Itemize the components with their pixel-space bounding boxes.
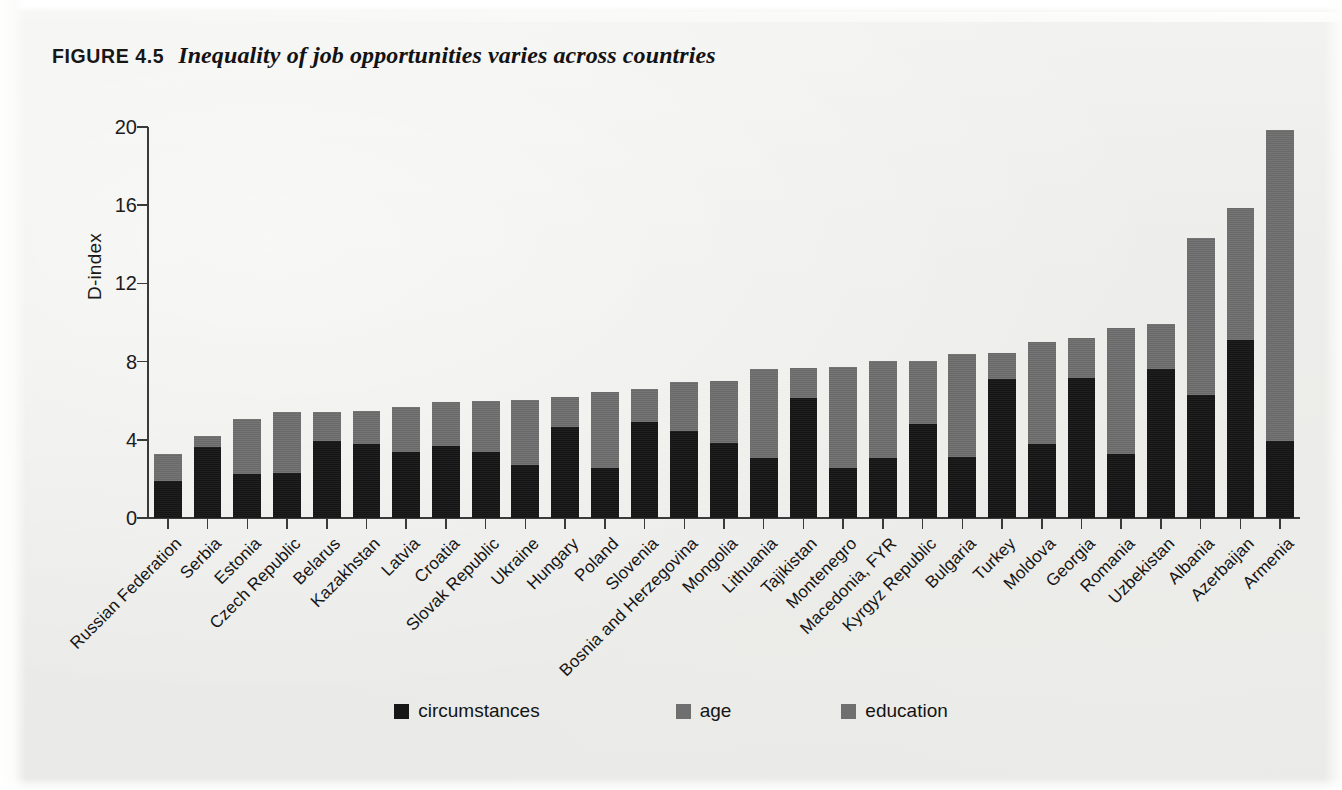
bar-segment-circumstances bbox=[472, 452, 500, 518]
legend-item-age: age bbox=[676, 700, 732, 722]
bar bbox=[948, 354, 976, 518]
bar-segment-circumstances bbox=[909, 424, 937, 518]
bar-segment-circumstances bbox=[353, 444, 381, 518]
bar-segment-age-education bbox=[511, 400, 539, 465]
bar-segment-age-education bbox=[988, 353, 1016, 379]
page-edge-left bbox=[0, 0, 26, 790]
legend-swatch-circumstances bbox=[394, 704, 409, 719]
x-axis-tick bbox=[247, 518, 249, 529]
bar-segment-age-education bbox=[392, 407, 420, 452]
x-axis-tick bbox=[604, 518, 606, 529]
x-axis-tick bbox=[525, 518, 527, 529]
bar bbox=[988, 353, 1016, 518]
bar-segment-age-education bbox=[1068, 338, 1096, 378]
x-axis-tick bbox=[803, 518, 805, 529]
y-axis-tick-label: 8 bbox=[77, 351, 137, 374]
bar-segment-age-education bbox=[670, 382, 698, 431]
x-axis-tick bbox=[1041, 518, 1043, 529]
x-axis-tick bbox=[1200, 518, 1202, 529]
page-edge-top-shadow bbox=[0, 12, 1342, 22]
bar-segment-circumstances bbox=[233, 474, 261, 518]
bar bbox=[273, 412, 301, 518]
figure-title-row: FIGURE 4.5Inequality of job opportunitie… bbox=[52, 42, 716, 69]
bar bbox=[511, 400, 539, 518]
bar bbox=[1187, 238, 1215, 518]
bar-segment-circumstances bbox=[273, 473, 301, 518]
bar-segment-age-education bbox=[790, 368, 818, 397]
x-axis-tick bbox=[962, 518, 964, 529]
bar bbox=[154, 454, 182, 519]
bar bbox=[551, 397, 579, 518]
bar-segment-age-education bbox=[948, 354, 976, 458]
bar-segment-circumstances bbox=[670, 431, 698, 518]
bar-segment-age-education bbox=[631, 389, 659, 422]
bar-segment-circumstances bbox=[1227, 340, 1255, 518]
legend-item-education: education bbox=[841, 700, 947, 722]
bar-segment-age-education bbox=[710, 381, 738, 443]
figure-caption: Inequality of job opportunities varies a… bbox=[178, 42, 716, 69]
plot-area: 048121620 bbox=[148, 127, 1300, 518]
bar-segment-circumstances bbox=[591, 468, 619, 518]
legend-label-age: age bbox=[700, 700, 732, 722]
bar-segment-age-education bbox=[1187, 238, 1215, 394]
y-axis-tick bbox=[137, 283, 148, 285]
bar-segment-age-education bbox=[750, 369, 778, 458]
bar-segment-age-education bbox=[1266, 130, 1294, 441]
bar bbox=[194, 436, 222, 518]
x-axis-tick bbox=[445, 518, 447, 529]
bar bbox=[353, 411, 381, 518]
bar-segment-age-education bbox=[829, 367, 857, 469]
bar bbox=[829, 367, 857, 519]
bar-segment-age-education bbox=[154, 454, 182, 481]
bar-segment-age-education bbox=[432, 402, 460, 446]
page-edge-right bbox=[1324, 0, 1342, 790]
bar-segment-circumstances bbox=[154, 481, 182, 518]
bar-segment-circumstances bbox=[631, 422, 659, 518]
bar bbox=[670, 382, 698, 518]
bar bbox=[1028, 342, 1056, 518]
bar bbox=[1147, 324, 1175, 518]
bar-segment-age-education bbox=[233, 419, 261, 474]
y-axis-tick-label: 12 bbox=[77, 272, 137, 295]
x-axis-tick bbox=[1279, 518, 1281, 529]
bar-segment-circumstances bbox=[432, 446, 460, 518]
legend-label-circumstances: circumstances bbox=[418, 700, 539, 722]
bar bbox=[1068, 338, 1096, 518]
page-edge-bottom bbox=[0, 778, 1342, 790]
bar bbox=[313, 412, 341, 518]
x-axis-tick bbox=[644, 518, 646, 529]
x-axis-tick bbox=[405, 518, 407, 529]
bar-segment-age-education bbox=[909, 361, 937, 425]
x-axis-tick bbox=[485, 518, 487, 529]
y-axis-tick bbox=[137, 361, 148, 363]
y-axis-tick-label: 0 bbox=[77, 507, 137, 530]
bar-segment-age-education bbox=[1147, 324, 1175, 369]
bar bbox=[631, 389, 659, 518]
x-axis-tick bbox=[723, 518, 725, 529]
bar-segment-age-education bbox=[1227, 208, 1255, 340]
x-axis-tick bbox=[1160, 518, 1162, 529]
bar bbox=[432, 402, 460, 518]
bar-segment-age-education bbox=[472, 401, 500, 452]
bar bbox=[750, 369, 778, 518]
bar-segment-circumstances bbox=[1107, 454, 1135, 519]
legend-label-education: education bbox=[865, 700, 947, 722]
x-axis-tick bbox=[564, 518, 566, 529]
bar bbox=[1107, 328, 1135, 518]
bar-segment-age-education bbox=[869, 361, 897, 459]
bar-segment-age-education bbox=[273, 412, 301, 473]
legend-swatch-age bbox=[676, 704, 691, 719]
legend-swatch-education bbox=[841, 704, 856, 719]
bar-segment-circumstances bbox=[313, 441, 341, 518]
bar-segment-circumstances bbox=[392, 452, 420, 518]
y-axis-tick bbox=[137, 517, 148, 519]
y-axis-tick bbox=[137, 126, 148, 128]
bar-segment-circumstances bbox=[869, 458, 897, 518]
bar-segment-circumstances bbox=[511, 465, 539, 518]
bar bbox=[591, 392, 619, 518]
y-axis-line bbox=[147, 127, 149, 519]
y-axis-tick bbox=[137, 439, 148, 441]
bar bbox=[710, 381, 738, 518]
figure-number: FIGURE 4.5 bbox=[52, 45, 164, 68]
figure-page: FIGURE 4.5Inequality of job opportunitie… bbox=[0, 0, 1342, 790]
